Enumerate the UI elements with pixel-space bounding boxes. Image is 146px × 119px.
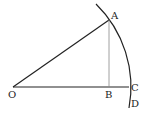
label-O: O [8,89,16,100]
label-A: A [110,10,119,21]
segment-OA [13,20,109,87]
label-C: C [131,82,139,93]
label-D: D [131,98,139,109]
label-B: B [105,89,112,100]
geometry-diagram: O A B C D [0,0,146,119]
